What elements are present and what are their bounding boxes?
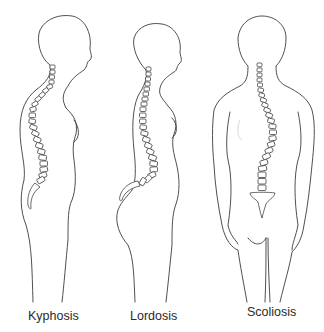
lordosis-label: Lordosis: [130, 309, 177, 323]
kyphosis-body-outline: [20, 16, 91, 302]
scoliosis-figure: [213, 16, 315, 302]
lordosis-figure: [117, 24, 182, 302]
kyphosis-label: Kyphosis: [28, 309, 79, 323]
lordosis-body-outline: [117, 24, 182, 302]
kyphosis-figure: [20, 16, 91, 302]
scoliosis-label: Scoliosis: [247, 305, 296, 319]
spine-curvature-diagram: [0, 0, 324, 332]
